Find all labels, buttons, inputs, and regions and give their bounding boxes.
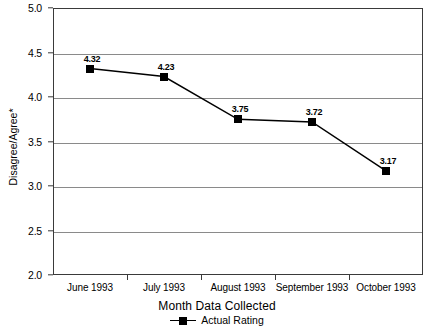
x-tick-label: September 1993 xyxy=(276,282,349,293)
y-tick-label: 4.5 xyxy=(28,47,42,59)
data-point-marker xyxy=(308,118,316,126)
y-tick-label: 3.0 xyxy=(28,180,42,192)
data-point-marker xyxy=(234,115,242,123)
y-tick-label: 2.0 xyxy=(28,269,42,281)
gridline xyxy=(54,232,422,233)
x-axis-title: Month Data Collected xyxy=(0,299,434,313)
plot-area xyxy=(53,8,423,275)
data-point-marker xyxy=(382,167,390,175)
x-tick-mark xyxy=(349,275,350,280)
x-tick-mark xyxy=(201,275,202,280)
y-axis-title: Disagree/Agree* xyxy=(7,67,19,227)
legend-marker-icon xyxy=(170,316,196,325)
gridline xyxy=(54,54,422,55)
x-tick-label: August 1993 xyxy=(210,282,265,293)
legend-label-actual-rating: Actual Rating xyxy=(201,314,263,326)
data-point-label: 3.72 xyxy=(306,107,323,117)
y-tick-label: 2.5 xyxy=(28,225,42,237)
data-point-label: 4.23 xyxy=(158,62,175,72)
data-point-label: 4.32 xyxy=(84,54,101,64)
chart-figure: 5.04.54.03.53.02.52.0 Disagree/Agree* 4.… xyxy=(0,0,434,330)
x-tick-label: July 1993 xyxy=(143,282,185,293)
x-tick-mark xyxy=(127,275,128,280)
data-point-label: 3.75 xyxy=(232,104,249,114)
chart-legend: Actual Rating xyxy=(0,314,434,326)
y-tick-label: 3.5 xyxy=(28,136,42,148)
y-tick-label: 5.0 xyxy=(28,2,42,14)
x-tick-label: June 1993 xyxy=(67,282,113,293)
x-tick-label: October 1993 xyxy=(356,282,415,293)
x-tick-mark xyxy=(275,275,276,280)
data-point-marker xyxy=(86,65,94,73)
y-tick-label: 4.0 xyxy=(28,91,42,103)
data-point-marker xyxy=(160,73,168,81)
data-point-label: 3.17 xyxy=(380,156,397,166)
gridline xyxy=(54,98,422,99)
gridline xyxy=(54,143,422,144)
gridline xyxy=(54,187,422,188)
